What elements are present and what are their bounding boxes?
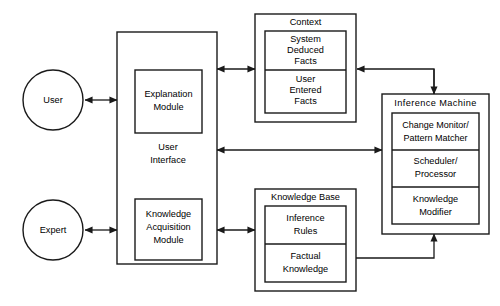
system-deduced-facts-label-line1: System	[290, 34, 321, 44]
explanation-module-label-line1: Explanation	[144, 89, 192, 99]
scheduler-processor-label-line1: Scheduler/	[414, 156, 458, 166]
scheduler-processor-label-line2: Processor	[415, 169, 456, 179]
diagram-canvas: User Expert Explanation Module User Inte…	[0, 0, 500, 306]
actor-expert: Expert	[23, 200, 83, 260]
user-label: User	[43, 95, 62, 105]
change-monitor-pattern-matcher-label-line2: Pattern Matcher	[403, 133, 467, 143]
explanation-module-node: Explanation Module	[135, 70, 202, 133]
knowledge-base-container: Knowledge Base Inference Rules Factual K…	[255, 189, 356, 291]
knowledge-acquisition-module-label-line2: Acquisition	[146, 222, 190, 232]
inference-rules-label-line1: Inference	[286, 213, 324, 223]
user-entered-facts-label-line3: Facts	[294, 96, 317, 106]
context-label: Context	[290, 17, 322, 27]
user-interface-label-line2: Interface	[150, 155, 186, 165]
factual-knowledge-label-line1: Factual	[290, 251, 320, 261]
user-interface-container: Explanation Module User Interface Knowle…	[117, 32, 217, 264]
knowledge-modifier-label-line2: Modifier	[419, 207, 452, 217]
knowledge-acquisition-module-label-line1: Knowledge	[146, 209, 191, 219]
change-monitor-pattern-matcher-label-line1: Change Monitor/	[402, 120, 469, 130]
expert-system-diagram: User Expert Explanation Module User Inte…	[0, 0, 500, 306]
knowledge-modifier-label-line1: Knowledge	[413, 194, 458, 204]
inference-machine-label: Inference Machine	[394, 98, 476, 108]
connection-knowledge-base-to-inference-machine	[356, 234, 434, 258]
knowledge-acquisition-module-node: Knowledge Acquisition Module	[135, 199, 202, 260]
system-deduced-facts-label-line3: Facts	[294, 56, 317, 66]
user-entered-facts-label-line2: Entered	[289, 85, 321, 95]
connection-inference-machine-to-context	[357, 69, 434, 94]
user-entered-facts-label-line1: User	[296, 74, 315, 84]
inference-machine-container: Inference Machine Change Monitor/ Patter…	[382, 94, 489, 234]
knowledge-base-label: Knowledge Base	[271, 192, 340, 202]
inference-rules-label-line2: Rules	[294, 226, 318, 236]
context-container: Context System Deduced Facts User Entere…	[255, 14, 356, 122]
knowledge-acquisition-module-label-line3: Module	[153, 235, 183, 245]
system-deduced-facts-label-line2: Deduced	[287, 45, 324, 55]
user-interface-label-line1: User	[158, 142, 177, 152]
actor-user: User	[23, 70, 83, 130]
explanation-module-label-line2: Module	[153, 102, 183, 112]
expert-label: Expert	[40, 225, 67, 235]
factual-knowledge-label-line2: Knowledge	[283, 264, 328, 274]
